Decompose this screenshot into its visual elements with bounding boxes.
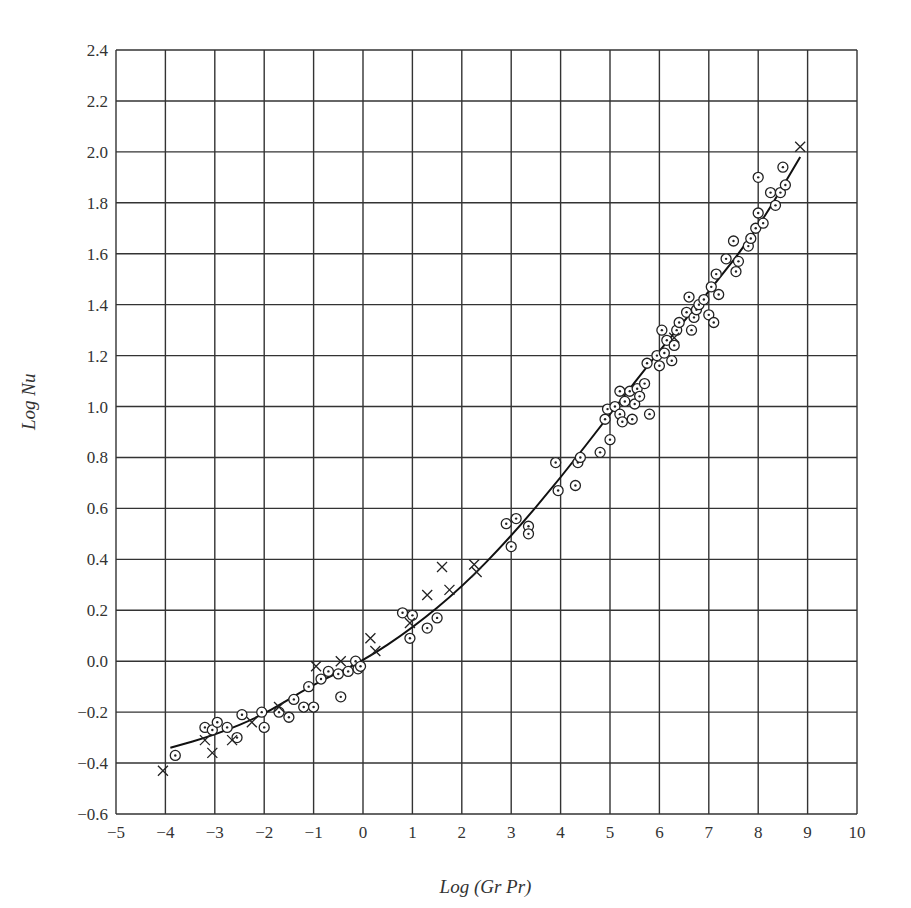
- svg-text:1.6: 1.6: [87, 245, 108, 264]
- svg-text:1.8: 1.8: [87, 194, 108, 213]
- svg-text:3: 3: [507, 823, 516, 842]
- chart-plot: −5−4−3−2−10123456789102.42.22.01.81.61.4…: [0, 0, 911, 908]
- svg-text:2.4: 2.4: [87, 41, 109, 60]
- svg-text:−2: −2: [255, 823, 273, 842]
- svg-text:0.0: 0.0: [87, 652, 108, 671]
- svg-text:−4: −4: [156, 823, 175, 842]
- y-axis-label: Log Nu: [18, 374, 40, 431]
- cross-marker: [311, 661, 321, 671]
- svg-text:0: 0: [359, 823, 368, 842]
- svg-text:9: 9: [803, 823, 812, 842]
- cross-marker: [437, 562, 447, 572]
- svg-text:6: 6: [655, 823, 664, 842]
- x-axis-label: Log (Gr Pr): [0, 876, 911, 898]
- svg-text:0.6: 0.6: [87, 499, 108, 518]
- cross-marker: [469, 559, 479, 569]
- svg-text:0.8: 0.8: [87, 448, 108, 467]
- svg-text:1.0: 1.0: [87, 398, 108, 417]
- svg-text:1.4: 1.4: [87, 296, 109, 315]
- svg-text:−3: −3: [206, 823, 224, 842]
- cross-marker: [472, 567, 482, 577]
- svg-text:0.2: 0.2: [87, 601, 108, 620]
- svg-text:−0.4: −0.4: [77, 754, 108, 773]
- svg-text:5: 5: [606, 823, 615, 842]
- svg-text:4: 4: [556, 823, 565, 842]
- svg-text:10: 10: [849, 823, 866, 842]
- svg-text:2.2: 2.2: [87, 92, 108, 111]
- tick-labels: −5−4−3−2−10123456789102.42.22.01.81.61.4…: [77, 41, 865, 842]
- svg-text:8: 8: [754, 823, 763, 842]
- svg-text:1.2: 1.2: [87, 347, 108, 366]
- svg-text:−0.2: −0.2: [77, 703, 108, 722]
- svg-text:1: 1: [408, 823, 417, 842]
- cross-marker: [422, 590, 432, 600]
- svg-text:7: 7: [705, 823, 714, 842]
- svg-text:−5: −5: [107, 823, 125, 842]
- grid-lines: [116, 50, 857, 814]
- svg-text:2: 2: [458, 823, 467, 842]
- svg-text:2.0: 2.0: [87, 143, 108, 162]
- svg-text:0.4: 0.4: [87, 550, 109, 569]
- svg-text:−0.6: −0.6: [77, 805, 108, 824]
- cross-marker: [207, 748, 217, 758]
- cross-marker: [158, 766, 168, 776]
- cross-marker: [444, 585, 454, 595]
- svg-text:−1: −1: [305, 823, 323, 842]
- cross-marker: [795, 142, 805, 152]
- cross-marker: [365, 633, 375, 643]
